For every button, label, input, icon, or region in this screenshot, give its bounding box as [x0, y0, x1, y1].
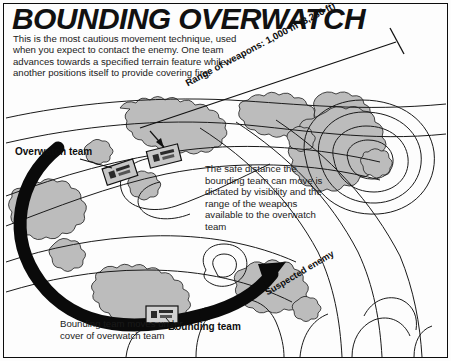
contour-line	[414, 326, 432, 357]
bounding-team-label: Bounding team	[168, 321, 241, 332]
safe-distance-note: The safe distance the bounding team can …	[205, 163, 329, 233]
vegetation-layer	[9, 92, 393, 326]
contour-line	[364, 298, 416, 330]
soldier-figure	[146, 144, 181, 168]
contour-line	[203, 244, 247, 286]
diagram-page: BOUNDING OVERWATCH This is the most caut…	[0, 0, 451, 361]
overwatch-team-label: Overwatch team	[15, 146, 92, 157]
contour-line	[138, 182, 190, 219]
contour-line	[213, 254, 237, 277]
contour-line	[352, 318, 410, 357]
